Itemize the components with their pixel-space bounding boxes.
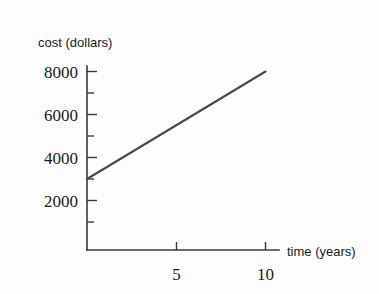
x-tick-label-10: 10 [257, 265, 274, 284]
line-chart-figure: 8000 6000 4000 2000 5 10 cost (dollars) … [0, 0, 379, 294]
y-tick-label-8000: 8000 [44, 63, 78, 82]
x-axis-title: time (years) [287, 244, 356, 259]
chart-canvas: 8000 6000 4000 2000 5 10 cost (dollars) … [0, 0, 379, 294]
y-tick-label-2000: 2000 [44, 192, 78, 211]
x-tick-label-5: 5 [172, 265, 181, 284]
y-tick-label-6000: 6000 [44, 106, 78, 125]
y-axis-title: cost (dollars) [38, 35, 112, 50]
y-tick-label-4000: 4000 [44, 149, 78, 168]
